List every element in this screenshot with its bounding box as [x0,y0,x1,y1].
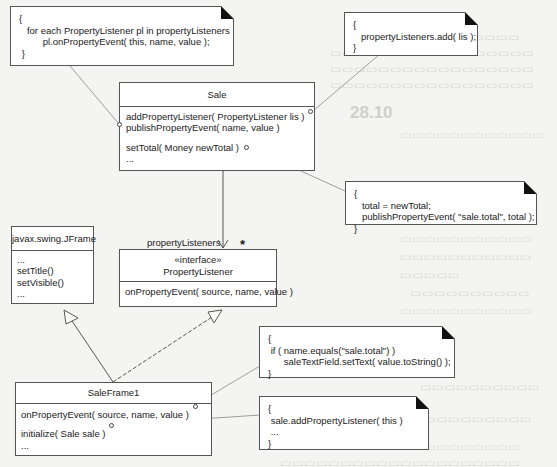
operation-publish-property-event: publishPropertyEvent( name, value ) [126,122,308,134]
background-noise: ▭▭▭▭▭ [400,268,460,282]
note-line: { [268,403,420,415]
operation-ellipsis: ... [21,440,206,452]
note-initialize: { sale.addPropertyListener( this ) ... } [259,396,429,450]
operation-ellipsis: ... [126,153,308,165]
operation-on-property-event: onPropertyEvent( source, name, value ) [125,286,271,298]
association-role-label: propertyListeners [147,237,220,248]
interface-property-listener: «interface» PropertyListener onPropertyE… [119,249,277,307]
note-line: if ( name.equals("sale.total") ) [268,345,446,357]
note-line: { [354,188,528,200]
note-line: } [268,438,420,450]
note-set-total: { total = newTotal; publishPropertyEvent… [345,181,537,225]
note-corner-icon [416,396,429,409]
background-noise: ▭▭▭▭▭▭▭▭▭▭▭▭▭▭▭▭▭▭▭▭ [280,456,520,467]
note-corner-icon [465,12,478,25]
note-line: total = newTotal; [354,200,528,212]
note-line: for each PropertyListener pl in property… [19,25,225,37]
note-line: saleTextField.setText( value.toString() … [268,356,446,368]
class-sale-frame1: SaleFrame1 onPropertyEvent( source, name… [15,382,212,456]
note-anchor-circle [244,145,249,150]
note-line: publishPropertyEvent( "sale.total", tota… [354,211,528,223]
background-noise: ▭▭▭▭▭▭▭▭▭▭▭▭▭▭▭▭▭ [330,78,534,92]
background-noise: ▭▭▭▭▭▭▭▭▭▭▭ [400,304,532,318]
background-noise: ▭▭▭▭▭▭▭▭▭▭▭ [400,250,532,264]
note-on-property-event: { if ( name.equals("sale.total") ) saleT… [259,326,455,378]
background-noise: ▭▭▭▭▭▭▭▭▭▭ [420,380,540,394]
note-corner-icon [442,326,455,339]
note-corner-icon [221,6,234,19]
note-anchor-circle [193,404,198,409]
operation-ellipsis: ... [17,254,88,266]
note-anchor-circle [109,423,114,428]
note-line: { [353,19,469,31]
note-line: } [353,42,469,54]
operation-set-total: setTotal( Money newTotal ) [126,142,308,154]
background-noise: ▭▭▭▭▭▭▭▭▭▭▭▭▭▭▭▭▭ [330,62,534,76]
note-line: pl.onPropertyEvent( this, name, value ); [19,36,225,48]
stereotype-label: «interface» [120,254,276,266]
operation-add-property-listener: addPropertyListener( PropertyListener li… [126,111,308,123]
class-name: javax.swing.JFrame [12,227,93,251]
note-line: ... [268,426,420,438]
class-name: PropertyListener [120,266,276,278]
note-anchor-circle [117,122,122,127]
operation-on-property-event: onPropertyEvent( source, name, value ) [21,409,206,421]
background-noise: ▭▭▭▭▭▭▭▭▭▭▭ [400,232,532,246]
background-noise: ▭▭▭▭▭▭▭▭▭▭ [410,286,530,300]
class-sale: Sale addPropertyListener( PropertyListen… [119,82,315,171]
background-noise: ▭▭▭▭▭▭▭▭▭▭▭▭ [400,128,544,142]
note-line: } [268,368,446,380]
operation-set-visible: setVisible() [17,277,88,289]
operation-ellipsis: ... [17,288,88,300]
operation-initialize: initialize( Sale sale ) [21,428,206,440]
note-corner-icon [524,181,537,194]
note-add-property-listener: { propertyListeners.add( lis ); } [344,12,478,56]
operation-set-title: setTitle() [17,265,88,277]
class-name: Sale [120,83,314,107]
note-line: { [19,13,225,25]
class-name: SaleFrame1 [16,383,211,404]
class-jframe: javax.swing.JFrame ... setTitle() setVis… [11,226,94,304]
note-publish-property-event: { for each PropertyListener pl in proper… [10,6,234,66]
note-line: } [354,223,528,235]
note-line: propertyListeners.add( lis ); [353,31,469,43]
note-line: { [268,333,446,345]
note-line: } [19,48,225,60]
background-heading: 28.10 [350,103,393,123]
note-line: sale.addPropertyListener( this ) [268,415,420,427]
note-anchor-circle [308,109,313,114]
